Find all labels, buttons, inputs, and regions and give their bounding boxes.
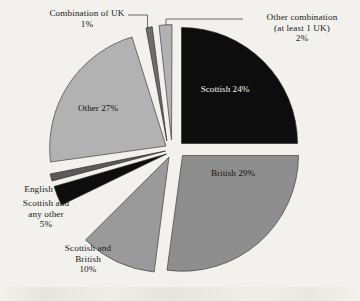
pie-chart-figure: Combination of UK 1% Other combination (… (0, 0, 360, 301)
slice-label-english-line1: English 1% (2, 184, 90, 195)
slice-label-scottish-value: 24% (233, 84, 250, 94)
slice-label-scottish: Scottish 24% (190, 84, 260, 95)
slice-label-english: English 1% (2, 184, 90, 195)
slice-label-scottish-and-british: Scottish and British 10% (42, 243, 134, 275)
slice-label-other-combination-line1: Other combination (244, 12, 360, 23)
pie-slice-other[interactable] (50, 37, 166, 162)
pie-slice-other-combination[interactable] (159, 25, 172, 140)
slice-label-combination-of-uk-value: 1% (28, 19, 146, 30)
slice-label-other-combination-line2: (at least 1 UK) (244, 23, 360, 34)
slice-label-scottish-and-british-line1: Scottish and (42, 243, 134, 254)
slice-label-british-line1: British (211, 168, 236, 178)
slice-label-other-value: 27% (101, 103, 118, 113)
slice-label-scottish-and-british-line2: British (42, 254, 134, 265)
slice-label-other: Other 27% (63, 103, 133, 114)
slice-label-other-line1: Other (78, 103, 99, 113)
slice-label-scottish-and-any-other-value: 5% (0, 219, 92, 230)
slice-label-other-combination-value: 2% (244, 33, 360, 44)
leader-line-other-combination (166, 19, 243, 26)
slice-label-scottish-and-british-value: 10% (42, 264, 134, 275)
slice-label-scottish-and-any-other: Scottish and any other 5% (0, 198, 92, 230)
slice-label-scottish-line1: Scottish (201, 84, 231, 94)
slice-label-british: British 29% (198, 168, 268, 179)
slice-label-other-combination: Other combination (at least 1 UK) 2% (244, 12, 360, 44)
slice-label-scottish-and-any-other-line1: Scottish and (0, 198, 92, 209)
slice-label-combination-of-uk-line1: Combination of UK (28, 8, 146, 19)
slice-label-scottish-and-any-other-line2: any other (0, 209, 92, 220)
slice-label-combination-of-uk: Combination of UK 1% (28, 8, 146, 29)
slice-label-british-value: 29% (238, 168, 255, 178)
